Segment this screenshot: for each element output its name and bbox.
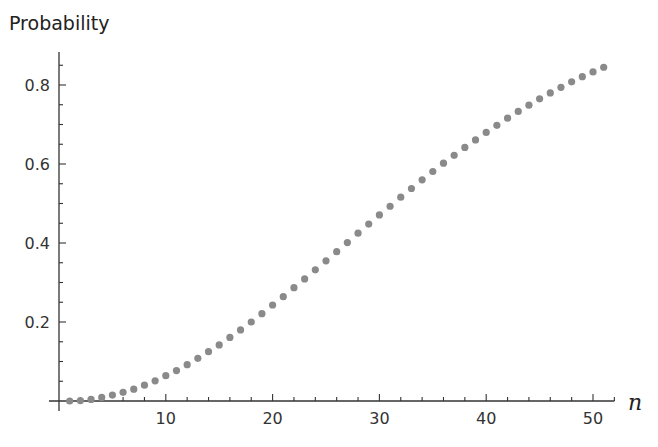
x-tick-label: 20 bbox=[262, 409, 282, 428]
scatter-plot: 10203040500.20.40.60.8 bbox=[0, 0, 658, 447]
data-point bbox=[376, 211, 383, 218]
data-point bbox=[419, 176, 426, 183]
data-point bbox=[365, 220, 372, 227]
data-point bbox=[184, 361, 191, 368]
data-point bbox=[98, 394, 105, 401]
data-point bbox=[290, 284, 297, 291]
data-point bbox=[451, 152, 458, 159]
data-point bbox=[130, 386, 137, 393]
data-point bbox=[568, 78, 575, 85]
x-tick-label: 40 bbox=[476, 409, 496, 428]
data-point bbox=[440, 160, 447, 167]
data-point bbox=[493, 122, 500, 129]
axes: 10203040500.20.40.60.8 bbox=[25, 52, 615, 428]
data-point bbox=[504, 115, 511, 122]
data-point bbox=[119, 389, 126, 396]
data-point bbox=[589, 68, 596, 75]
y-tick-label: 0.6 bbox=[25, 155, 50, 174]
data-point bbox=[87, 396, 94, 403]
data-point bbox=[472, 136, 479, 143]
data-point bbox=[280, 293, 287, 300]
data-point bbox=[525, 102, 532, 109]
data-point bbox=[173, 367, 180, 374]
x-tick-label: 10 bbox=[156, 409, 176, 428]
y-tick-label: 0.8 bbox=[25, 76, 50, 95]
x-tick-label: 30 bbox=[369, 409, 389, 428]
data-point bbox=[354, 230, 361, 237]
data-point bbox=[397, 194, 404, 201]
data-point bbox=[205, 348, 212, 355]
y-tick-label: 0.4 bbox=[25, 234, 50, 253]
data-point bbox=[344, 239, 351, 246]
data-point bbox=[301, 275, 308, 282]
data-point bbox=[258, 310, 265, 317]
data-point bbox=[226, 334, 233, 341]
data-point bbox=[194, 355, 201, 362]
data-point bbox=[579, 73, 586, 80]
data-point bbox=[109, 391, 116, 398]
data-point bbox=[600, 64, 607, 71]
data-point bbox=[536, 95, 543, 102]
data-point bbox=[386, 203, 393, 210]
data-point bbox=[237, 326, 244, 333]
data-point bbox=[557, 84, 564, 91]
data-point bbox=[429, 168, 436, 175]
data-point bbox=[408, 185, 415, 192]
data-point bbox=[248, 318, 255, 325]
data-point bbox=[515, 108, 522, 115]
data-point bbox=[66, 397, 73, 404]
data-point bbox=[162, 372, 169, 379]
data-point bbox=[461, 144, 468, 151]
data-point bbox=[322, 257, 329, 264]
y-tick-label: 0.2 bbox=[25, 313, 50, 332]
data-point bbox=[312, 266, 319, 273]
data-point bbox=[483, 129, 490, 136]
data-points bbox=[66, 64, 607, 405]
data-point bbox=[547, 89, 554, 96]
data-point bbox=[216, 341, 223, 348]
data-point bbox=[77, 397, 84, 404]
data-point bbox=[333, 248, 340, 255]
data-point bbox=[141, 382, 148, 389]
x-tick-label: 50 bbox=[583, 409, 603, 428]
data-point bbox=[269, 301, 276, 308]
data-point bbox=[152, 377, 159, 384]
